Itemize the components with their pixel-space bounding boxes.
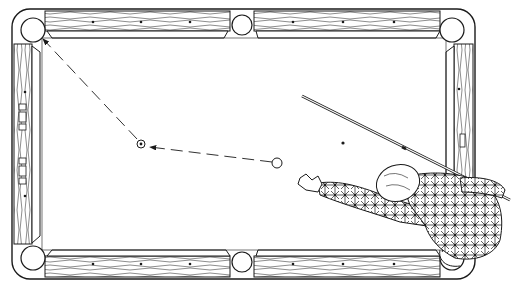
pocket-top-left [21, 18, 45, 42]
pocket-bottom-left [21, 246, 45, 270]
diagram-canvas [0, 0, 519, 292]
pocket-bottom-middle [232, 252, 252, 272]
table-frame [12, 9, 475, 279]
table-spot [341, 141, 344, 144]
cue-ball [272, 158, 282, 168]
pocket-top-middle [232, 15, 252, 35]
pocket-top-right [440, 18, 464, 42]
pool-table-diagram [0, 0, 519, 292]
